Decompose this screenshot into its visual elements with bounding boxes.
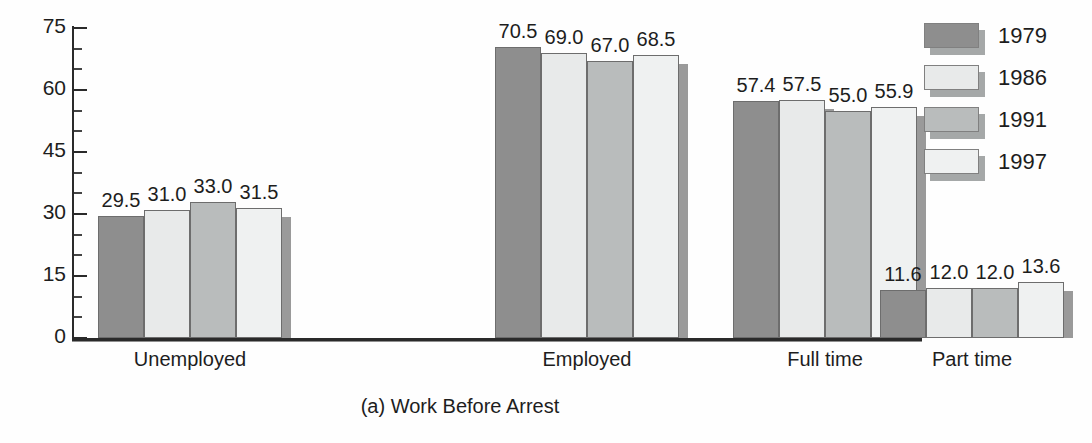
bar-value-label: 68.5 — [626, 28, 686, 51]
legend-label-1997: 1997 — [998, 149, 1047, 175]
y-axis-line — [72, 26, 74, 340]
category-label-unemployed: Unemployed — [90, 348, 290, 371]
y-tick-label: 75 — [18, 14, 66, 38]
bar-unemployed-1991[interactable] — [190, 202, 236, 338]
y-tick-major — [74, 89, 87, 91]
figure-caption: (a) Work Before Arrest — [0, 395, 920, 418]
y-tick-major — [74, 275, 87, 277]
bar-employed-1997[interactable] — [633, 55, 679, 338]
bar-unemployed-1979[interactable] — [98, 216, 144, 338]
y-tick-minor — [74, 130, 82, 132]
bar-employed-1991[interactable] — [587, 61, 633, 338]
y-tick-minor — [74, 296, 82, 298]
legend-item-1986[interactable]: 1986 — [922, 60, 1082, 100]
bar-employed-1979[interactable] — [495, 47, 541, 338]
y-tick-major — [74, 151, 87, 153]
y-tick-minor — [74, 110, 82, 112]
bar-full-time-1986[interactable] — [779, 100, 825, 338]
y-tick-minor — [74, 68, 82, 70]
bar-unemployed-1997[interactable] — [236, 208, 282, 338]
x-axis-line — [72, 338, 922, 341]
y-tick-minor — [74, 234, 82, 236]
bar-unemployed-1986[interactable] — [144, 210, 190, 338]
y-tick-minor — [74, 254, 82, 256]
y-tick-major — [74, 27, 87, 29]
y-tick-label: 60 — [18, 76, 66, 100]
bar-value-label: 55.9 — [864, 80, 924, 103]
bar-value-label: 31.5 — [229, 181, 289, 204]
legend-label-1986: 1986 — [998, 65, 1047, 91]
y-tick-minor — [74, 48, 82, 50]
y-tick-major — [74, 213, 87, 215]
bar-full-time-1979[interactable] — [733, 101, 779, 338]
y-tick-label: 30 — [18, 200, 66, 224]
legend-label-1979: 1979 — [998, 23, 1047, 49]
bar-part-time-1979[interactable] — [880, 290, 926, 338]
category-label-employed: Employed — [487, 348, 687, 371]
y-tick-minor — [74, 192, 82, 194]
y-tick-minor — [74, 172, 82, 174]
legend-swatch-1997 — [924, 149, 979, 174]
legend-label-1991: 1991 — [998, 107, 1047, 133]
legend-item-1979[interactable]: 1979 — [922, 18, 1082, 58]
chart-figure: 01530456075 29.531.033.031.570.569.067.0… — [0, 0, 1092, 443]
bar-part-time-1986[interactable] — [926, 288, 972, 338]
legend: 1979198619911997 — [922, 18, 1082, 186]
y-tick-label: 15 — [18, 262, 66, 286]
legend-swatch-1986 — [924, 65, 979, 90]
y-tick-label: 0 — [18, 324, 66, 348]
legend-item-1991[interactable]: 1991 — [922, 102, 1082, 142]
y-tick-label: 45 — [18, 138, 66, 162]
bar-part-time-1991[interactable] — [972, 288, 1018, 338]
bar-value-label: 13.6 — [1011, 255, 1071, 278]
legend-swatch-1991 — [924, 107, 979, 132]
bar-part-time-1997[interactable] — [1018, 282, 1064, 338]
bar-full-time-1991[interactable] — [825, 111, 871, 338]
legend-swatch-1979 — [924, 23, 979, 48]
bar-employed-1986[interactable] — [541, 53, 587, 338]
category-label-part-time: Part time — [872, 348, 1072, 371]
y-tick-minor — [74, 316, 82, 318]
legend-item-1997[interactable]: 1997 — [922, 144, 1082, 184]
